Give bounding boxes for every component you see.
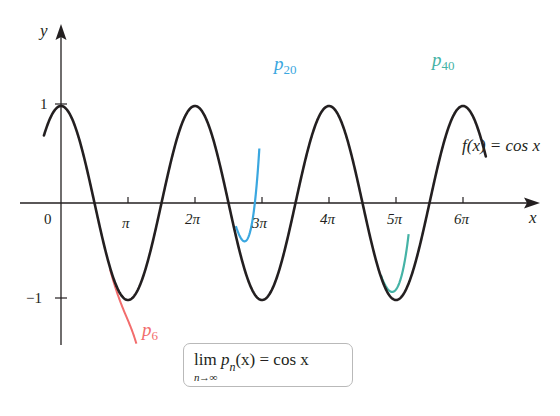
p20-label-sub: 20 (284, 62, 297, 77)
x-tick-6pi-label: 6π (454, 212, 469, 227)
p20-label: p20 (274, 54, 297, 76)
p20-label-base: p (274, 53, 284, 74)
p40-label-base: p (432, 49, 442, 70)
x-tick-5pi-label: 5π (387, 212, 402, 227)
cos-function-label: f(x) = cos x (462, 137, 540, 154)
p40-label-sub: 40 (442, 58, 455, 73)
x-tick-3pi-label: 3π (252, 216, 267, 231)
p6-label-base: p (142, 319, 152, 340)
x-tick-pi-label: π (122, 216, 130, 231)
formula-p-subscript: n (229, 360, 235, 374)
formula-rest: (x) = cos x (235, 350, 308, 369)
limit-formula: lim n→∞ pn(x) = cos x (194, 350, 309, 370)
y-tick-1-label: 1 (40, 97, 48, 112)
x-axis-label: x (529, 209, 537, 226)
p6-label: p6 (142, 320, 158, 342)
p6-label-sub: 6 (152, 328, 159, 343)
limit-formula-box: lim n→∞ pn(x) = cos x (183, 343, 353, 387)
origin-label: 0 (44, 212, 52, 227)
x-tick-4pi-label: 4π (320, 212, 335, 227)
p40-curve (381, 234, 409, 292)
y-axis-label: y (40, 22, 48, 39)
x-tick-2pi-label: 2π (185, 212, 200, 227)
formula-lim: lim (194, 350, 217, 369)
p40-label: p40 (432, 50, 455, 72)
y-tick-neg1-label: −1 (26, 291, 42, 306)
formula-lim-subscript: n→∞ (194, 371, 217, 383)
